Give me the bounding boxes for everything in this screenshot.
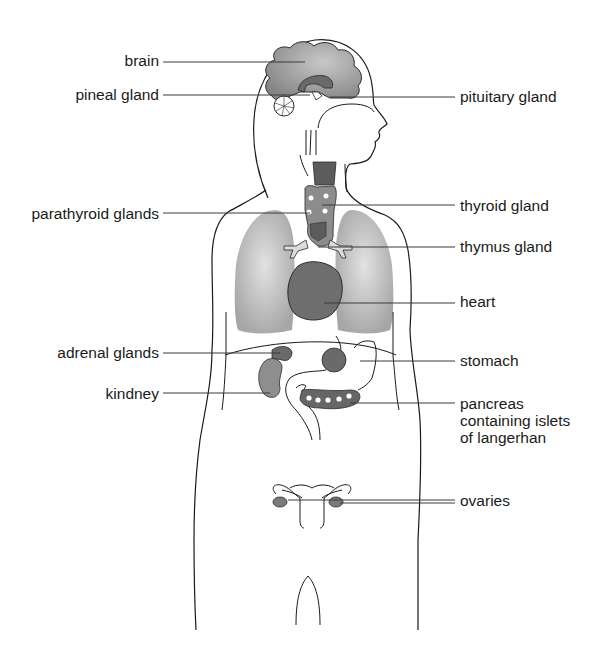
label-ovaries: ovaries [460, 492, 510, 509]
endocrine-diagram: brain pineal gland parathyroid glands ad… [0, 0, 599, 656]
head-outline [194, 40, 421, 630]
label-pituitary-gland: pituitary gland [460, 88, 557, 105]
label-stomach: stomach [460, 352, 519, 369]
ovary-right [329, 497, 343, 507]
neck-organs [305, 162, 336, 246]
face-profile [300, 104, 374, 192]
label-heart: heart [460, 293, 495, 310]
label-pancreas-line-3: of langerhan [460, 429, 599, 446]
heart-shape [288, 262, 342, 320]
stomach-shape [322, 348, 346, 372]
label-parathyroid-glands: parathyroid glands [31, 205, 159, 222]
label-thymus-gland: thymus gland [460, 238, 552, 255]
ovary-left [273, 497, 287, 507]
kidney-shape [259, 359, 282, 398]
label-kidney: kindney [106, 385, 159, 402]
leg-gap [296, 576, 320, 625]
label-pancreas-line-2: containing islets [460, 412, 599, 429]
label-pineal-gland: pineal gland [75, 86, 159, 103]
label-thyroid-gland: thyroid gland [460, 197, 549, 214]
label-pancreas: pancreas containing islets of langerhan [460, 395, 599, 446]
brain-shape [266, 42, 362, 116]
label-pancreas-line-1: pancreas [460, 395, 599, 412]
label-brain: brain [125, 52, 159, 69]
pancreas-shape [300, 389, 360, 408]
label-adrenal-glands: adrenal glands [57, 344, 159, 361]
